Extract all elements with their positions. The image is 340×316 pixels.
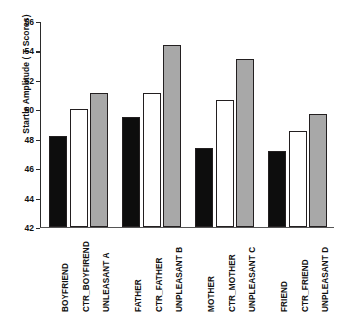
bar [216, 100, 234, 227]
bar [70, 109, 88, 227]
x-axis-tick-label: CTR_MOTHER [228, 254, 237, 312]
bar [143, 93, 161, 227]
y-axis-tick-mark [36, 51, 40, 52]
x-axis-tick-label: UNLEASANT A [102, 253, 111, 312]
x-axis-tick-label: CTR_FATHER [155, 257, 164, 312]
y-axis-tick-mark [36, 110, 40, 111]
y-axis-tick-mark [36, 228, 40, 229]
x-axis-tick-label: CTR_FRIEND [301, 259, 310, 312]
y-axis-tick-mark [36, 199, 40, 200]
y-axis-tick-label: 56 [25, 17, 34, 27]
bar [49, 136, 67, 227]
x-axis-tick-label: FRIEND [280, 281, 289, 312]
y-axis-line [40, 22, 41, 228]
x-axis-tick-labels: BOYFRIENDCTR_BOYFIRENDUNLEASANT AFATHERC… [40, 230, 334, 316]
bar [309, 114, 327, 227]
y-axis-tick-label: 44 [25, 194, 34, 204]
bar [236, 59, 254, 227]
startle-amplitude-bar-chart: Startle Amplitude ( T Scores) 5654525048… [0, 0, 340, 316]
bar [195, 148, 213, 227]
y-axis-tick-mark [36, 169, 40, 170]
y-axis-tick-mark [36, 81, 40, 82]
y-axis-tick-label: 42 [25, 223, 34, 233]
y-axis-tick-mark [36, 140, 40, 141]
bar [90, 93, 108, 227]
bar [122, 117, 140, 227]
x-axis-tick-label: FATHER [134, 279, 143, 312]
bar [289, 131, 307, 227]
x-axis-tick-label: UNPLEASANT C [248, 247, 257, 312]
x-axis-line [40, 227, 334, 228]
x-axis-tick-label: BOYFRIEND [61, 263, 70, 312]
x-axis-tick-label: CTR_BOYFIREND [82, 241, 91, 312]
x-axis-tick-label: MOTHER [207, 276, 216, 312]
y-axis-tick-label: 46 [25, 164, 34, 174]
x-axis-tick-label: UNPLEASANT B [175, 247, 184, 312]
y-axis-tick-label: 50 [25, 105, 34, 115]
y-axis-tick-label: 52 [25, 76, 34, 86]
y-axis-tick-label: 48 [25, 135, 34, 145]
x-axis-tick-label: UNPLEASANT D [321, 247, 330, 312]
y-axis-tick-mark [36, 22, 40, 23]
y-axis-tick-label: 54 [25, 46, 34, 56]
bar [163, 45, 181, 227]
bar [268, 151, 286, 228]
plot-area: 5654525048464442 [40, 22, 334, 228]
